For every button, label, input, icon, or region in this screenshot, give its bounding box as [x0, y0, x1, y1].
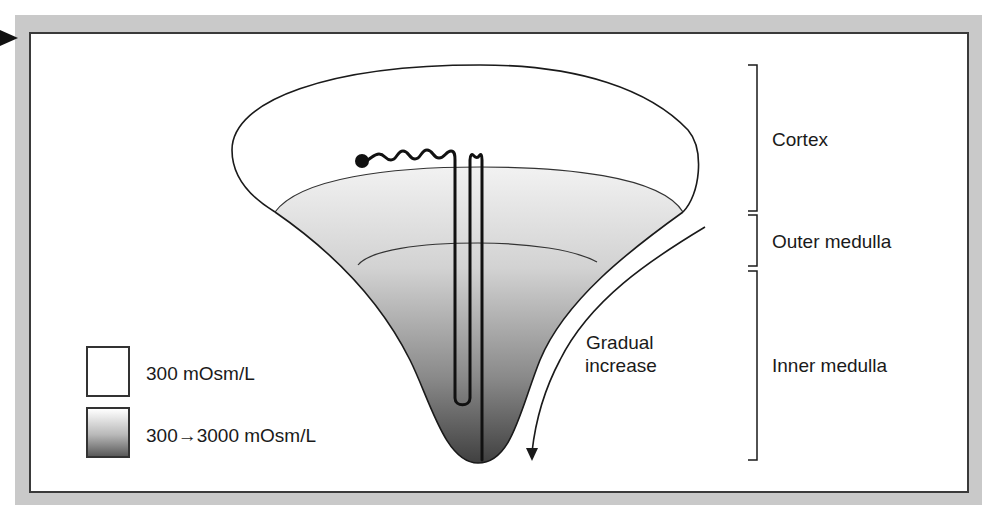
annotation-increase: increase — [585, 356, 657, 375]
legend-swatch-gradient — [86, 407, 130, 458]
glomerulus-icon — [355, 154, 369, 168]
label-outer-medulla: Outer medulla — [772, 232, 891, 251]
arrowhead-icon — [526, 448, 538, 461]
legend-swatch-isotonic — [86, 346, 130, 397]
region-brackets — [748, 65, 757, 460]
legend-label-isotonic: 300 mOsm/L — [146, 364, 255, 383]
annotation-gradual: Gradual — [586, 333, 654, 352]
legend-label-gradient: 300→3000 mOsm/L — [146, 426, 316, 445]
label-inner-medulla: Inner medulla — [772, 356, 887, 375]
label-cortex: Cortex — [772, 130, 828, 149]
